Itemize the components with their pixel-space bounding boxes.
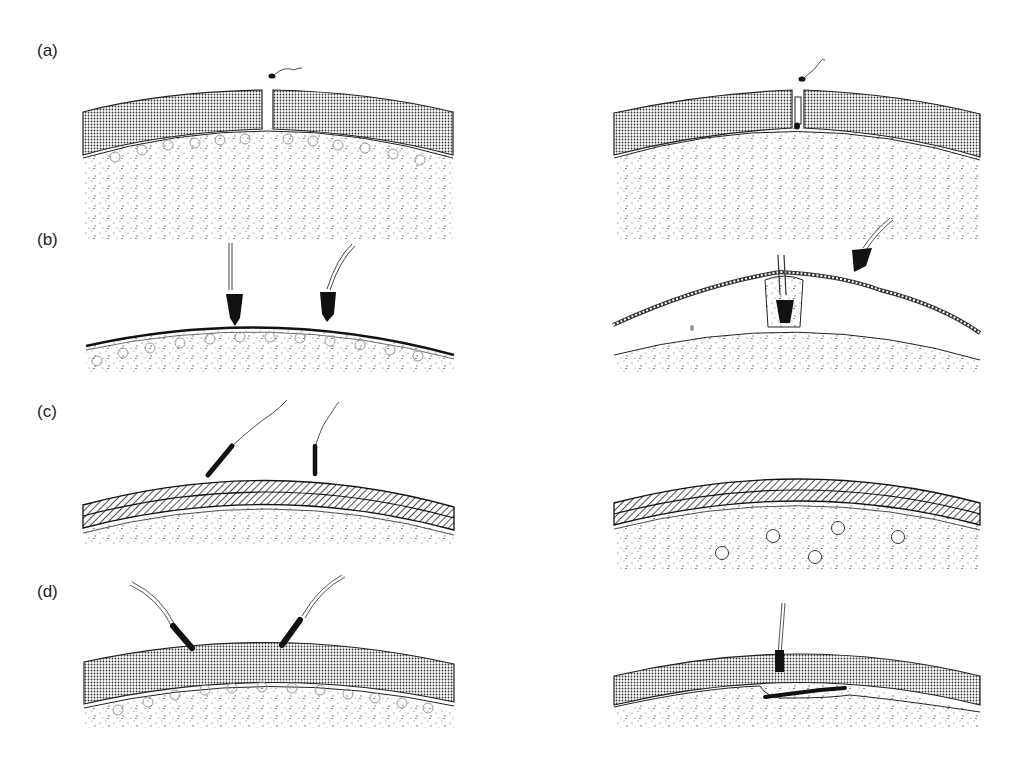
panel-b-right (613, 218, 980, 372)
panel-a-right (614, 59, 980, 240)
panel-d-right (614, 603, 980, 728)
panel-c-left (83, 400, 454, 545)
panel-d-left (84, 575, 454, 728)
figure-canvas (0, 0, 1020, 761)
panel-a-left (83, 68, 453, 240)
panel-b-left (86, 243, 454, 372)
panel-c-right (614, 479, 980, 570)
